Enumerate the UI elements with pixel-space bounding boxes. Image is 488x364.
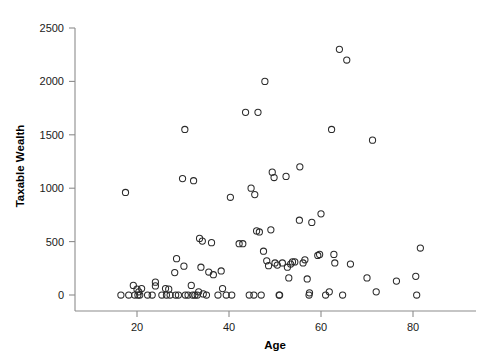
y-tick-label: 2500: [40, 22, 64, 34]
data-point: [414, 292, 420, 298]
data-point: [219, 285, 225, 291]
data-point: [417, 245, 423, 251]
data-point: [122, 189, 128, 195]
data-point: [126, 292, 132, 298]
x-tick-label: 40: [223, 321, 235, 333]
data-point: [340, 292, 346, 298]
data-point: [198, 264, 204, 270]
data-point: [268, 227, 274, 233]
data-point: [344, 57, 350, 63]
data-point: [283, 173, 289, 179]
data-point: [262, 78, 268, 84]
data-point: [255, 109, 261, 115]
data-point: [260, 248, 266, 254]
data-point: [149, 292, 155, 298]
scatter-plot-figure: 05001000150020002500 20406080 Age Taxabl…: [0, 0, 488, 364]
data-point: [251, 292, 257, 298]
x-tick-label: 80: [407, 321, 419, 333]
axes: [75, 28, 476, 311]
data-point: [369, 137, 375, 143]
x-tick-label: 60: [315, 321, 327, 333]
data-point: [252, 192, 258, 198]
data-point: [332, 260, 338, 266]
data-point: [373, 289, 379, 295]
data-point: [215, 292, 221, 298]
data-point: [240, 241, 246, 247]
y-tick-label: 500: [46, 236, 64, 248]
data-point: [188, 282, 194, 288]
y-axis-title: Taxable Wealth: [14, 125, 26, 208]
y-tick-label: 1500: [40, 129, 64, 141]
data-point: [172, 269, 178, 275]
data-point: [271, 174, 277, 180]
data-point: [118, 292, 124, 298]
data-point: [248, 185, 254, 191]
chart-canvas: 05001000150020002500 20406080 Age Taxabl…: [0, 0, 488, 364]
data-point: [347, 261, 353, 267]
data-point: [297, 164, 303, 170]
data-point: [364, 275, 370, 281]
data-point: [331, 251, 337, 257]
data-point: [181, 263, 187, 269]
y-tick-label: 1000: [40, 182, 64, 194]
data-point: [304, 276, 310, 282]
data-point: [328, 126, 334, 132]
data-point: [173, 256, 179, 262]
data-point: [309, 219, 315, 225]
data-points-layer: [118, 46, 424, 298]
data-point: [182, 126, 188, 132]
data-point: [242, 109, 248, 115]
data-point: [393, 278, 399, 284]
data-point: [258, 292, 264, 298]
data-point: [318, 211, 324, 217]
x-axis-ticks: 20406080: [131, 311, 419, 333]
y-tick-label: 2000: [40, 75, 64, 87]
data-point: [286, 275, 292, 281]
data-point: [336, 46, 342, 52]
data-point: [179, 175, 185, 181]
data-point: [130, 282, 136, 288]
y-axis-ticks: 05001000150020002500: [40, 22, 75, 301]
data-point: [413, 273, 419, 279]
data-point: [227, 194, 233, 200]
data-point: [152, 283, 158, 289]
data-point: [296, 217, 302, 223]
y-tick-label: 0: [58, 289, 64, 301]
data-point: [218, 268, 224, 274]
data-point: [208, 240, 214, 246]
data-point: [317, 251, 323, 257]
data-point: [190, 178, 196, 184]
x-axis-title: Age: [264, 339, 286, 351]
x-tick-label: 20: [131, 321, 143, 333]
